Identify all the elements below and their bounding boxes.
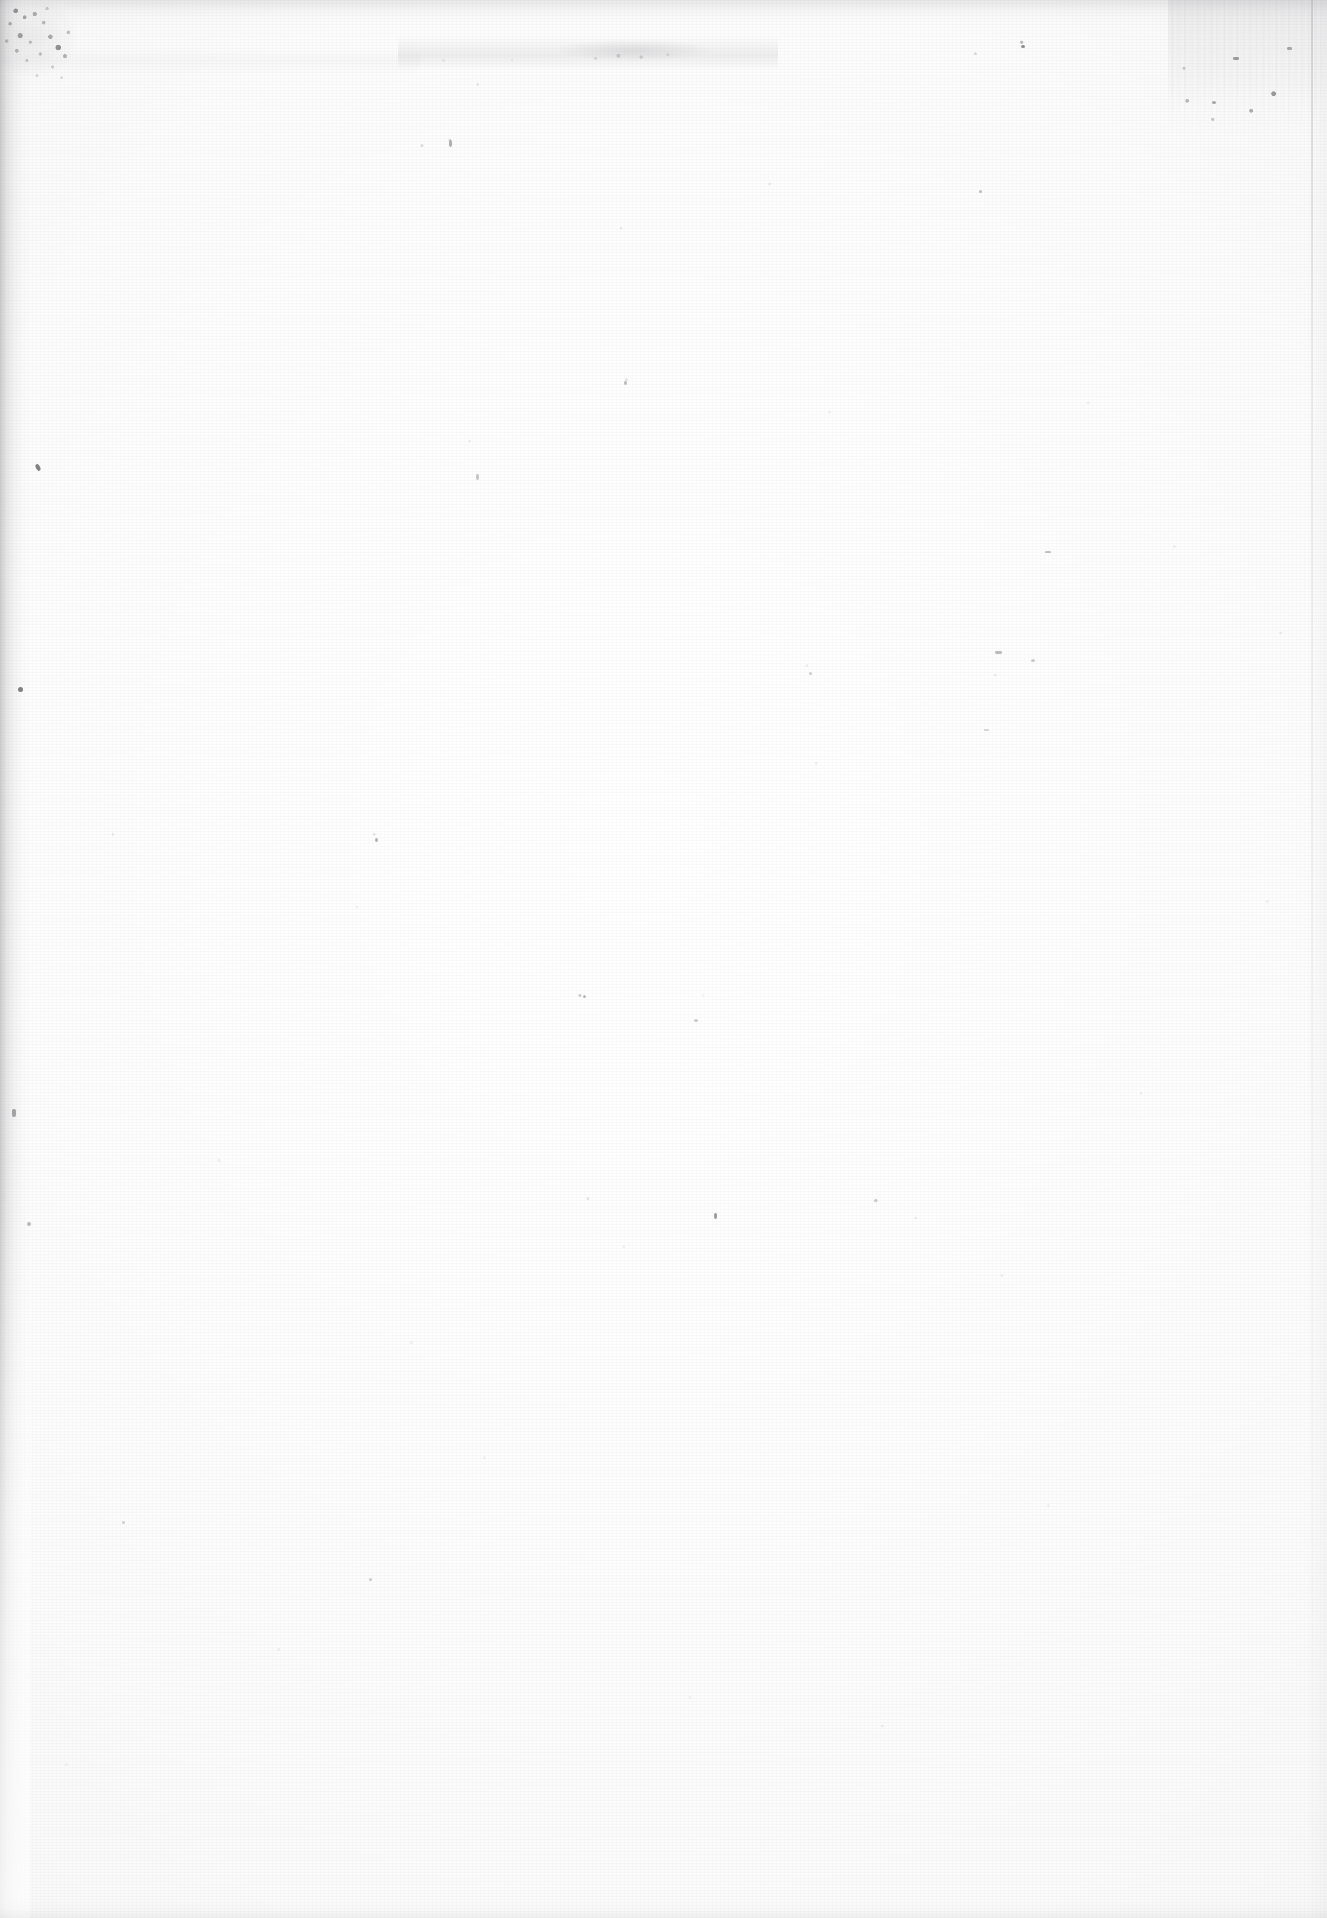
scanned-page — [0, 0, 1327, 1918]
page-text-area — [0, 0, 1327, 1918]
